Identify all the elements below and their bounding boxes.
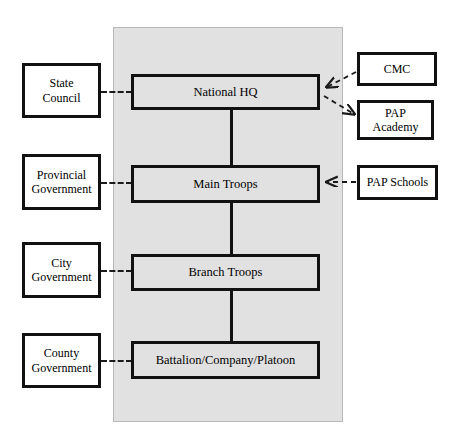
node-cmc-label-line1: CMC bbox=[384, 62, 411, 76]
node-state-council-label-line1: State bbox=[43, 76, 81, 90]
connector-branch-troops-to-battalion bbox=[230, 291, 233, 341]
node-pap-academy-label-line1: PAP bbox=[373, 106, 419, 120]
connector-national-hq-to-main-troops bbox=[230, 110, 233, 172]
node-national-hq-label: National HQ bbox=[193, 85, 257, 100]
node-branch-troops[interactable]: Branch Troops bbox=[131, 254, 320, 291]
connector-state-council-to-national-hq bbox=[101, 91, 132, 93]
node-pap-schools-label-line1: PAP Schools bbox=[367, 175, 428, 189]
node-county-government[interactable]: County Government bbox=[22, 333, 101, 388]
node-county-government-label-line1: County bbox=[32, 346, 92, 360]
node-city-government[interactable]: City Government bbox=[22, 242, 101, 298]
node-pap-academy[interactable]: PAP Academy bbox=[357, 100, 434, 140]
connector-county-government-to-battalion bbox=[101, 360, 132, 362]
node-main-troops[interactable]: Main Troops bbox=[131, 165, 320, 203]
connector-provincial-government-to-main-troops bbox=[101, 182, 132, 184]
node-county-government-label-line2: Government bbox=[32, 361, 92, 375]
node-provincial-government[interactable]: Provincial Government bbox=[22, 154, 101, 210]
node-state-council[interactable]: State Council bbox=[22, 63, 101, 118]
node-pap-academy-label-line2: Academy bbox=[373, 120, 419, 134]
node-pap-schools[interactable]: PAP Schools bbox=[357, 165, 438, 200]
node-battalion-company-platoon-label: Battalion/Company/Platoon bbox=[156, 353, 296, 368]
node-city-government-label-line2: Government bbox=[32, 270, 92, 284]
diagram-canvas: National HQ Main Troops Branch Troops Ba… bbox=[0, 0, 453, 442]
node-provincial-government-label-line2: Government bbox=[32, 182, 92, 196]
node-national-hq[interactable]: National HQ bbox=[131, 74, 320, 110]
connector-main-troops-to-branch-troops bbox=[230, 203, 233, 259]
node-cmc[interactable]: CMC bbox=[357, 52, 437, 86]
node-city-government-label-line1: City bbox=[32, 256, 92, 270]
connector-city-government-to-branch-troops bbox=[101, 270, 132, 272]
node-provincial-government-label-line1: Provincial bbox=[32, 168, 92, 182]
node-state-council-label-line2: Council bbox=[43, 91, 81, 105]
node-main-troops-label: Main Troops bbox=[193, 177, 257, 192]
node-branch-troops-label: Branch Troops bbox=[189, 265, 263, 280]
node-battalion-company-platoon[interactable]: Battalion/Company/Platoon bbox=[131, 341, 320, 379]
